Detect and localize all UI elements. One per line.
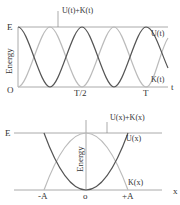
tick-neg-a: -A	[38, 191, 48, 201]
potential-curve-t	[18, 27, 168, 87]
energy-diagram: U(t)+K(t) E O T/2 T t U(t) K(t) Energy U…	[0, 0, 180, 205]
x-axis-label: x	[173, 186, 178, 196]
energy-label-x: Energy	[75, 146, 85, 172]
origin-label: O	[7, 85, 14, 95]
sum-label: U(t)+K(t)	[62, 6, 94, 15]
u-label-x: U(x)	[126, 134, 141, 143]
tick-pos-a: +A	[122, 191, 134, 201]
t-axis-label: t	[171, 82, 174, 92]
tick-period: T	[143, 88, 149, 98]
tick-origin: o	[83, 191, 88, 201]
bottom-chart: U(x)+K(x) E -A o +A x U(x) K(x) Energy	[5, 113, 178, 201]
kinetic-curve-t	[18, 27, 168, 87]
tick-half-period: T/2	[74, 88, 87, 98]
u-label: U(t)	[151, 29, 165, 38]
e-label-x: E	[5, 128, 11, 138]
sum-label-x: U(x)+K(x)	[110, 113, 145, 122]
top-chart: U(t)+K(t) E O T/2 T t U(t) K(t) Energy	[4, 6, 174, 98]
k-label: K(t)	[151, 75, 165, 84]
e-label: E	[7, 22, 13, 32]
k-label-x: K(x)	[128, 178, 143, 187]
energy-label: Energy	[4, 48, 14, 74]
